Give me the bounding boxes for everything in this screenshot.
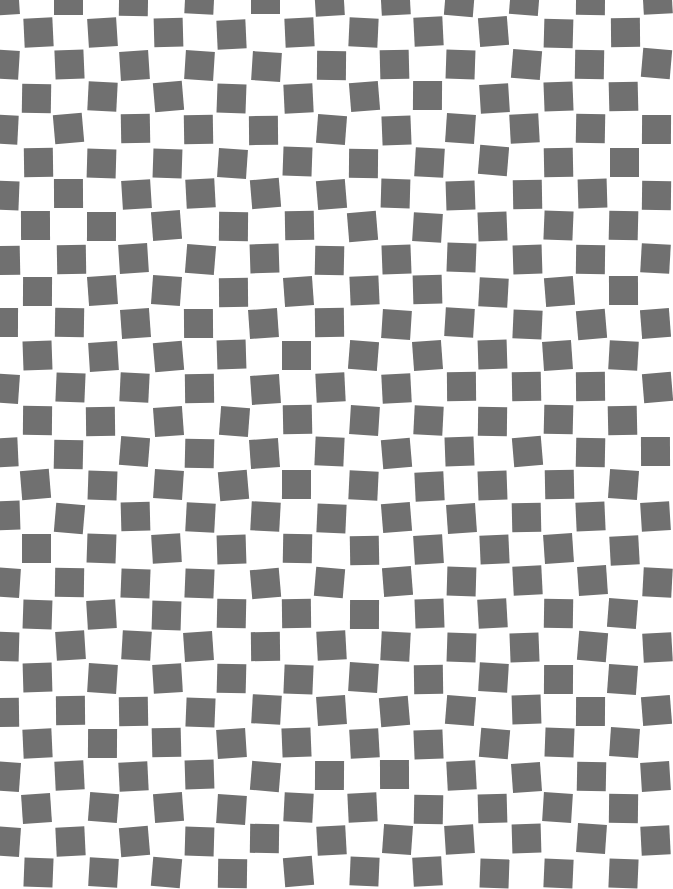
checker-square <box>219 406 250 437</box>
checker-square <box>282 599 311 628</box>
checker-square <box>576 244 605 273</box>
checker-square <box>151 210 182 241</box>
checker-square <box>283 665 313 695</box>
checker-square <box>609 276 638 305</box>
checker-square <box>445 50 475 80</box>
checker-square <box>20 469 51 500</box>
checker-square <box>511 762 542 793</box>
checker-square <box>543 859 573 889</box>
checker-square <box>283 276 314 307</box>
checker-square <box>284 18 314 48</box>
checker-square <box>381 373 411 403</box>
checker-square <box>348 340 379 371</box>
checker-square <box>412 212 443 243</box>
checker-square <box>512 309 542 339</box>
checker-square <box>478 277 509 308</box>
checker-square <box>414 599 444 629</box>
checker-square <box>219 278 248 307</box>
checker-square <box>544 599 573 628</box>
checker-square <box>314 436 344 466</box>
checker-square <box>576 114 606 144</box>
checker-square <box>121 568 151 598</box>
checker-square <box>640 308 671 339</box>
checker-square <box>382 244 412 274</box>
checker-square <box>577 178 607 208</box>
checker-square <box>151 600 181 630</box>
checker-square <box>119 436 150 467</box>
checker-square <box>642 0 673 15</box>
checker-square <box>0 501 21 531</box>
checker-square <box>118 243 149 274</box>
checker-square <box>185 697 215 727</box>
checker-square <box>120 308 151 339</box>
checker-square <box>54 0 83 15</box>
checker-square <box>611 18 640 47</box>
checker-square <box>54 761 84 791</box>
checker-square <box>575 50 604 79</box>
checker-square <box>151 533 182 564</box>
checker-square <box>23 857 53 887</box>
checker-square <box>120 372 150 402</box>
checker-square <box>0 50 20 81</box>
checker-square <box>55 630 86 661</box>
checker-square <box>218 859 247 888</box>
checker-square <box>545 727 575 757</box>
checker-square <box>446 760 477 791</box>
checker-square <box>444 824 475 855</box>
checker-square <box>0 826 21 857</box>
checker-square <box>478 407 507 436</box>
checker-square <box>316 503 346 533</box>
checker-square <box>22 406 51 435</box>
checker-square <box>544 148 574 178</box>
checker-square <box>575 502 605 532</box>
checker-square <box>382 566 413 597</box>
checker-square <box>250 761 281 792</box>
checker-square <box>249 116 278 145</box>
checker-square <box>509 0 540 16</box>
checker-square <box>576 309 607 340</box>
checker-square <box>477 340 507 370</box>
checker-square <box>282 405 312 435</box>
checker-square <box>445 180 475 210</box>
checker-square <box>478 794 508 824</box>
checker-square <box>0 631 19 661</box>
checker-square <box>87 81 117 111</box>
checker-square <box>444 437 474 467</box>
checker-square <box>576 0 605 15</box>
checker-square <box>350 600 379 629</box>
checker-square <box>217 663 247 693</box>
checker-square <box>609 727 640 758</box>
checker-square <box>251 694 282 725</box>
checker-square <box>183 631 214 662</box>
checker-square <box>349 728 380 759</box>
checker-square <box>607 598 638 629</box>
checker-square <box>0 567 21 598</box>
checker-square <box>379 50 409 80</box>
checker-square <box>576 438 606 468</box>
checker-square <box>349 406 380 437</box>
checker-square <box>217 148 248 179</box>
checker-square <box>0 373 20 404</box>
checker-square <box>119 0 148 16</box>
checker-square <box>348 81 379 112</box>
checker-square <box>217 535 247 565</box>
checker-square <box>251 0 280 14</box>
checker-square <box>282 470 311 499</box>
checker-square <box>315 373 345 403</box>
checker-square <box>447 566 477 596</box>
checker-square <box>185 374 214 403</box>
checker-square <box>249 824 278 853</box>
checker-square <box>414 147 445 178</box>
checker-square <box>217 340 247 370</box>
checker-square <box>316 114 347 145</box>
checker-square <box>381 115 411 145</box>
checker-square <box>479 83 510 114</box>
checker-square <box>217 728 248 759</box>
checker-square <box>151 275 182 306</box>
checker-square <box>121 502 151 532</box>
checker-square <box>379 696 410 727</box>
checker-square <box>543 665 572 694</box>
checker-square <box>415 471 445 501</box>
checker-square <box>608 858 638 888</box>
